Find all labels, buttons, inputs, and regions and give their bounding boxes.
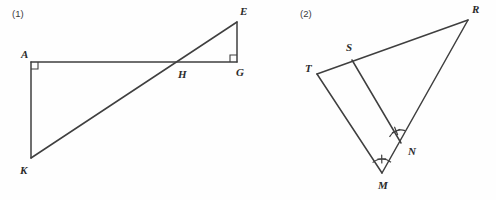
vertex-label-A: A	[20, 48, 28, 60]
figure-1: (1)AEGHK	[12, 5, 247, 176]
figure-2: (2)TSRNM	[300, 3, 479, 191]
segment-RM	[382, 20, 468, 173]
vertex-label-N: N	[407, 145, 417, 157]
vertex-label-H: H	[177, 68, 187, 80]
vertex-label-T: T	[305, 62, 313, 74]
vertex-label-K: K	[19, 164, 28, 176]
right-angle-mark-A	[31, 62, 38, 69]
figure-number-label: (2)	[300, 8, 312, 19]
right-angle-mark-G	[230, 55, 237, 62]
figure-number-label: (1)	[12, 8, 24, 19]
geometry-figure-sheet: (1)AEGHK(2)TSRNM	[0, 0, 496, 200]
geometry-canvas: (1)AEGHK(2)TSRNM	[0, 0, 496, 200]
segment-KE	[31, 22, 237, 158]
segment-TR	[317, 20, 468, 74]
vertex-label-R: R	[471, 3, 479, 15]
vertex-label-S: S	[346, 41, 352, 53]
segment-TM	[317, 74, 382, 173]
vertex-label-M: M	[377, 179, 389, 191]
vertex-label-E: E	[239, 5, 247, 17]
segment-SN	[352, 60, 401, 143]
vertex-label-G: G	[236, 66, 244, 78]
